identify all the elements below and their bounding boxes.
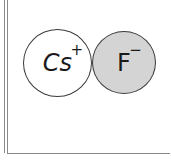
fluoride-ion-label: F− [117, 51, 131, 75]
cesium-symbol: Cs [43, 49, 72, 77]
frame-left-line-inner [7, 0, 8, 153]
cesium-charge: + [71, 43, 84, 58]
frame-bottom-line [7, 153, 170, 154]
cesium-ion-label: Cs+ [43, 51, 72, 75]
fluoride-charge: − [129, 43, 142, 58]
frame-left-line-outer [4, 0, 5, 153]
cesium-cation-circle: Cs+ [23, 29, 92, 97]
fluoride-anion-circle: F− [92, 31, 156, 94]
